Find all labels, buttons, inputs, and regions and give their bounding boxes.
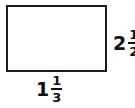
width-numerator: 1 [51,74,62,88]
width-fraction: 1 3 [51,74,62,104]
height-numerator: 1 [128,28,135,42]
width-label: 1 1 3 [36,74,62,104]
height-fraction: 1 2 [128,28,135,58]
figure-canvas: 1 1 3 2 1 2 [0,0,135,108]
height-label: 2 1 2 [113,28,135,58]
width-denominator: 3 [51,90,62,104]
height-denominator: 2 [128,44,135,58]
width-whole-number: 1 [36,80,49,99]
height-whole-number: 2 [113,34,126,53]
rectangle-shape [6,5,107,72]
